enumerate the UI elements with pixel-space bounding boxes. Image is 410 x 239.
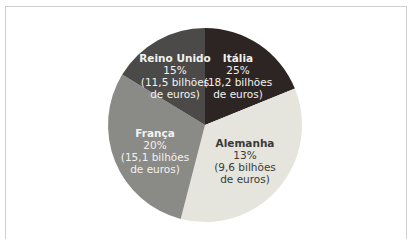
slice-value: (11,5 bilhões xyxy=(139,76,210,88)
slice-value-unit: de euros) xyxy=(204,88,272,100)
slice-name: Itália xyxy=(204,52,272,64)
label-franca: França 20% (15,1 bilhões de euros) xyxy=(121,127,189,175)
slice-name: França xyxy=(121,127,189,139)
slice-percent: 25% xyxy=(204,64,272,76)
slice-name: Alemanha xyxy=(214,137,276,149)
slice-name: Reino Unido xyxy=(139,52,210,64)
pie-chart xyxy=(0,0,410,239)
slice-value: (9,6 bilhões xyxy=(214,161,276,173)
slice-percent: 13% xyxy=(214,149,276,161)
slice-percent: 15% xyxy=(139,64,210,76)
slice-value-unit: de euros) xyxy=(214,173,276,185)
label-reino-unido: Reino Unido 15% (11,5 bilhões de euros) xyxy=(139,52,210,100)
label-italia: Itália 25% (18,2 bilhões de euros) xyxy=(204,52,272,100)
slice-value-unit: de euros) xyxy=(121,163,189,175)
slice-value: (15,1 bilhões xyxy=(121,151,189,163)
slice-value: (18,2 bilhões xyxy=(204,76,272,88)
label-alemanha: Alemanha 13% (9,6 bilhões de euros) xyxy=(214,137,276,185)
slice-value-unit: de euros) xyxy=(139,88,210,100)
slice-percent: 20% xyxy=(121,139,189,151)
